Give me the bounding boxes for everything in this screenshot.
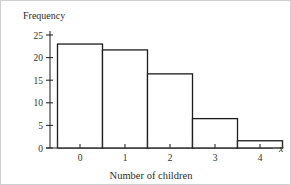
x-axis-variable-symbol: x bbox=[278, 143, 284, 154]
x-tick-label-2: 2 bbox=[168, 153, 173, 163]
bar-category-3 bbox=[193, 119, 238, 148]
x-tick-label-1: 1 bbox=[123, 153, 128, 163]
x-tick-label-4: 4 bbox=[258, 153, 263, 163]
x-tick-label-3: 3 bbox=[213, 153, 218, 163]
y-tick-label-0: 0 bbox=[38, 144, 43, 154]
bar-category-0 bbox=[58, 44, 103, 148]
histogram-chart: Frequency 0 5 10 15 20 25 bbox=[1, 1, 291, 185]
y-tick-label-10: 10 bbox=[34, 98, 44, 108]
x-tick-label-0: 0 bbox=[78, 153, 83, 163]
y-tick-label-15: 15 bbox=[34, 76, 44, 86]
x-axis-title: Number of children bbox=[110, 170, 194, 181]
histogram-figure: Frequency 0 5 10 15 20 25 bbox=[0, 0, 291, 185]
y-tick-label-25: 25 bbox=[34, 31, 44, 41]
bar-category-2 bbox=[148, 74, 193, 148]
y-tick-label-5: 5 bbox=[38, 121, 43, 131]
y-axis-title: Frequency bbox=[23, 10, 65, 21]
bar-category-1 bbox=[103, 50, 148, 148]
y-tick-label-20: 20 bbox=[34, 53, 44, 63]
